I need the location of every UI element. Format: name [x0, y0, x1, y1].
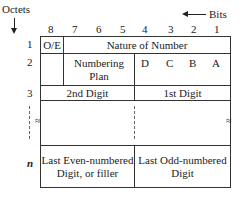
row-divider: [40, 53, 231, 54]
bit-number: 4: [142, 23, 148, 35]
second-digit-cell: 2nd Digit: [41, 86, 134, 100]
last-odd-digit-cell: Last Odd-numbered Digit: [135, 146, 230, 187]
octet-number: 1: [27, 38, 33, 50]
table-right-border: [230, 36, 231, 188]
break-icon: ≈: [226, 115, 232, 126]
continuation-dash: [134, 106, 135, 139]
octet-number: 2: [27, 56, 33, 68]
bit-number: 3: [168, 23, 174, 35]
left-arrow-icon: [186, 14, 206, 15]
octet-number: 3: [27, 87, 33, 99]
row-divider: [40, 100, 231, 101]
bit-number: 1: [214, 23, 220, 35]
break-icon: ≈: [35, 115, 41, 126]
cell-line: Last Even-numbered: [42, 154, 134, 167]
table-bottom-border: [40, 187, 231, 188]
bit-number: 7: [72, 23, 78, 35]
numbering-plan-cell: Numbering Plan: [64, 55, 134, 85]
cell-line: Last Odd-numbered: [138, 154, 226, 167]
octets-label: Octets: [2, 3, 30, 15]
bit-number: 6: [96, 23, 102, 35]
bit-number: 5: [120, 23, 126, 35]
continuation-dash: [29, 106, 30, 139]
bit-number: 8: [48, 23, 54, 35]
numbering-line: Numbering: [74, 57, 124, 70]
cell-line: Digit, or filler: [57, 167, 118, 180]
octet-number: n: [27, 157, 33, 169]
bit-d: D: [141, 57, 149, 69]
oe-cell: O/E: [41, 37, 63, 53]
nature-of-number-cell: Nature of Number: [64, 37, 230, 53]
bit-b: B: [189, 57, 196, 69]
numbering-line: Plan: [89, 70, 109, 83]
cell-line: Digit: [171, 167, 194, 180]
first-digit-cell: 1st Digit: [135, 86, 230, 100]
bit-c: C: [166, 57, 173, 69]
bit-number: 2: [191, 23, 197, 35]
bits-label: Bits: [209, 8, 227, 20]
bit-a: A: [212, 57, 220, 69]
left-arrow-head-icon: [182, 11, 188, 17]
down-arrow-head-icon: [11, 28, 17, 34]
last-even-digit-cell: Last Even-numbered Digit, or filler: [41, 146, 134, 187]
